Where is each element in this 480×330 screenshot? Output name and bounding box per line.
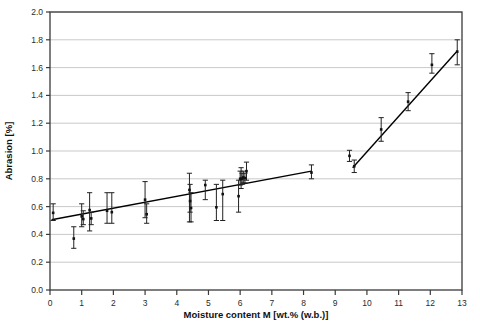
x-tick-label: 4: [174, 298, 179, 308]
data-point: [310, 171, 313, 174]
data-point: [380, 128, 383, 131]
x-tick-label: 13: [457, 298, 467, 308]
y-tick-label: 1.8: [31, 35, 43, 45]
y-tick-label: 2.0: [31, 7, 43, 17]
x-tick-label: 0: [48, 298, 53, 308]
data-point: [145, 213, 148, 216]
data-point: [353, 165, 356, 168]
data-point: [407, 100, 410, 103]
y-tick-label: 1.4: [31, 90, 43, 100]
y-tick-label: 0.4: [31, 229, 43, 239]
data-point: [144, 198, 147, 201]
data-point: [90, 217, 93, 220]
y-tick-label: 0.2: [31, 257, 43, 267]
data-point: [348, 155, 351, 158]
y-tick-label: 0.8: [31, 174, 43, 184]
x-axis-title: Moisture content M [wt.% (w.b.)]: [184, 309, 329, 320]
x-tick-label: 7: [269, 298, 274, 308]
x-tick-label: 6: [238, 298, 243, 308]
x-tick-label: 9: [333, 298, 338, 308]
x-tick-label: 10: [362, 298, 372, 308]
data-point: [88, 209, 91, 212]
x-tick-label: 3: [143, 298, 148, 308]
data-point: [431, 64, 434, 67]
data-point: [190, 207, 193, 210]
y-axis-title: Abrasion [%]: [3, 122, 14, 181]
data-point: [204, 184, 207, 187]
x-tick-label: 1: [79, 298, 84, 308]
y-tick-label: 0.0: [31, 285, 43, 295]
data-point: [215, 206, 218, 209]
data-point: [52, 212, 55, 215]
chart-container: 0.00.20.40.60.81.01.21.41.61.82.0 012345…: [0, 0, 480, 330]
y-tick-label: 1.2: [31, 118, 43, 128]
x-tick-label: 12: [426, 298, 436, 308]
data-point: [221, 193, 224, 196]
abrasion-vs-moisture-scatter-chart: 0.00.20.40.60.81.01.21.41.61.82.0 012345…: [0, 0, 480, 330]
data-point: [245, 170, 248, 173]
chart-background: [0, 0, 480, 330]
y-tick-label: 1.0: [31, 146, 43, 156]
data-point: [80, 215, 83, 218]
y-tick-label: 0.6: [31, 202, 43, 212]
data-point: [82, 218, 85, 221]
data-point: [456, 50, 459, 53]
x-tick-label: 11: [394, 298, 403, 308]
data-point: [111, 211, 114, 214]
x-tick-label: 2: [111, 298, 116, 308]
data-point: [237, 195, 240, 198]
data-point: [72, 237, 75, 240]
data-point: [189, 200, 192, 203]
x-tick-label: 5: [206, 298, 211, 308]
x-tick-label: 8: [301, 298, 306, 308]
y-tick-label: 1.6: [31, 63, 43, 73]
data-point: [188, 189, 191, 192]
data-point: [244, 177, 247, 180]
data-point: [106, 209, 109, 212]
